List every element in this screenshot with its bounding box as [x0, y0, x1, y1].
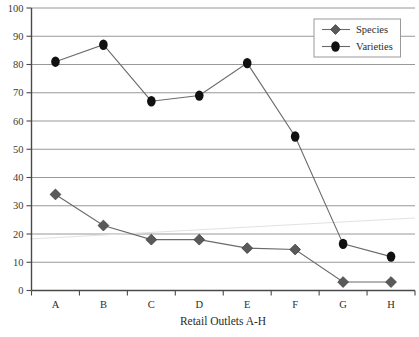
series-markers [50, 40, 396, 288]
data-point-circle-icon [51, 56, 60, 66]
y-tick-label: 40 [13, 172, 24, 183]
data-point-diamond-icon [98, 220, 109, 231]
data-point-circle-icon [387, 251, 396, 261]
x-tick-marks [32, 291, 416, 296]
x-tick-label: A [52, 299, 60, 310]
y-tick-label: 50 [13, 144, 24, 155]
x-tick-label: B [100, 299, 107, 310]
x-tick-label: E [244, 299, 250, 310]
y-tick-label: 0 [18, 285, 23, 296]
x-tick-label: G [339, 299, 347, 310]
data-point-diamond-icon [290, 244, 301, 255]
y-tick-label: 20 [13, 229, 24, 240]
data-point-circle-icon [243, 58, 252, 68]
x-tick-label: H [387, 299, 395, 310]
data-point-circle-icon [291, 131, 300, 141]
y-tick-label: 90 [13, 31, 24, 42]
y-tick-label: 60 [13, 116, 24, 127]
x-tick-label: F [292, 299, 298, 310]
scan-artifact-line [30, 218, 415, 239]
data-point-circle-icon [99, 40, 108, 50]
data-point-diamond-icon [242, 243, 253, 254]
line-chart: 0102030405060708090100 ABCDEFGH Species … [0, 0, 419, 337]
legend: Species Varieties [314, 19, 401, 57]
data-point-diamond-icon [50, 189, 61, 200]
y-tick-label: 70 [13, 87, 24, 98]
y-tick-labels: 0102030405060708090100 [8, 3, 24, 297]
y-tick-label: 100 [8, 3, 24, 14]
data-point-diamond-icon [194, 234, 205, 245]
x-tick-label: C [148, 299, 155, 310]
chart-canvas: 0102030405060708090100 ABCDEFGH Species … [0, 0, 419, 337]
y-tick-label: 10 [13, 257, 24, 268]
y-tick-label: 30 [13, 200, 24, 211]
legend-label-species: Species [356, 24, 388, 35]
data-point-diamond-icon [146, 234, 157, 245]
x-tick-labels: ABCDEFGH [52, 299, 396, 310]
y-tick-label: 80 [13, 59, 24, 70]
legend-label-varieties: Varieties [356, 41, 393, 52]
y-tick-marks [27, 8, 32, 291]
data-point-circle-icon [339, 239, 348, 249]
x-tick-label: D [195, 299, 203, 310]
data-point-diamond-icon [386, 277, 397, 288]
data-point-diamond-icon [338, 277, 349, 288]
x-axis-title: Retail Outlets A-H [180, 315, 266, 327]
data-point-circle-icon [147, 96, 156, 106]
data-point-circle-icon [195, 90, 204, 100]
legend-marker-circle-icon [331, 41, 340, 51]
legend-entry-varieties: Varieties [322, 41, 393, 52]
